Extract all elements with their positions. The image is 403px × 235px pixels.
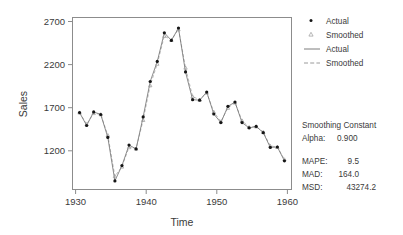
actual-series-line	[80, 28, 285, 181]
actual-data-point	[191, 98, 194, 101]
x-tick-label: 1940	[136, 196, 157, 207]
actual-data-point	[163, 31, 166, 34]
actual-data-point	[170, 39, 173, 42]
y-axis-tick-labels: 2700 2200 1700 1200	[44, 16, 65, 156]
actual-data-point	[233, 100, 236, 103]
plot-frame	[73, 18, 292, 190]
actual-data-point	[184, 70, 187, 73]
actual-data-point	[248, 126, 251, 129]
x-axis-tick-labels: 1930 1940 1950 1960	[65, 196, 298, 207]
actual-data-point	[99, 113, 102, 116]
actual-data-point	[113, 179, 116, 182]
actual-line-path	[80, 28, 285, 181]
actual-data-point	[255, 125, 258, 128]
mad-value: 164.0	[339, 170, 360, 179]
triangle-marker-icon	[309, 32, 313, 36]
actual-data-point	[269, 146, 272, 149]
actual-data-point	[205, 90, 208, 93]
x-axis-ticks	[76, 190, 288, 195]
y-tick-label: 2700	[44, 16, 65, 27]
y-axis-title: Sales	[17, 91, 29, 117]
actual-data-point	[142, 115, 145, 118]
actual-data-point	[106, 136, 109, 139]
actual-data-point	[134, 147, 137, 150]
actual-data-point	[198, 99, 201, 102]
actual-data-point	[120, 164, 123, 167]
mad-label: MAD:	[302, 170, 322, 179]
mape-label: MAPE:	[302, 157, 327, 166]
actual-data-point	[127, 143, 130, 146]
msd-value: 43274.2	[346, 183, 376, 192]
y-axis-ticks	[68, 22, 73, 151]
alpha-value: 0.900	[337, 134, 358, 143]
smoothing-constant-block: Smoothing Constant Alpha: 0.900	[302, 121, 377, 143]
x-tick-label: 1960	[277, 196, 298, 207]
legend-entry-label: Actual	[326, 17, 349, 26]
actual-data-point	[276, 145, 279, 148]
smoothing-constant-heading: Smoothing Constant	[302, 121, 377, 130]
msd-label: MSD:	[302, 183, 322, 192]
x-axis-title: Time	[171, 216, 194, 228]
actual-data-point	[177, 26, 180, 29]
actual-data-point	[149, 80, 152, 83]
legend: Actual Smoothed Actual Smoothed	[304, 17, 364, 69]
legend-entry-label: Smoothed	[326, 59, 364, 68]
legend-entry-label: Smoothed	[326, 31, 364, 40]
y-tick-label: 2200	[44, 59, 65, 70]
actual-data-point	[262, 131, 265, 134]
actual-data-point	[156, 60, 159, 63]
actual-data-point	[212, 112, 215, 115]
legend-entry-label: Actual	[326, 45, 349, 54]
x-tick-label: 1930	[65, 196, 86, 207]
actual-data-point	[85, 124, 88, 127]
exponential-smoothing-chart: 2700 2200 1700 1200 1930 1940 1950 1960 …	[0, 0, 403, 235]
y-tick-label: 1200	[44, 145, 65, 156]
actual-data-point	[240, 121, 243, 124]
mape-value: 9.5	[348, 157, 360, 166]
actual-data-point	[92, 110, 95, 113]
dot-marker-icon	[310, 19, 313, 22]
actual-data-point	[283, 159, 286, 162]
chart-svg: 2700 2200 1700 1200 1930 1940 1950 1960 …	[0, 0, 403, 235]
y-tick-label: 1700	[44, 102, 65, 113]
actual-data-point	[78, 111, 81, 114]
actual-data-point	[226, 105, 229, 108]
actual-data-point	[219, 121, 222, 124]
x-tick-label: 1950	[206, 196, 227, 207]
alpha-label: Alpha:	[302, 134, 325, 143]
accuracy-measures-block: MAPE: 9.5 MAD: 164.0 MSD: 43274.2	[302, 157, 376, 192]
